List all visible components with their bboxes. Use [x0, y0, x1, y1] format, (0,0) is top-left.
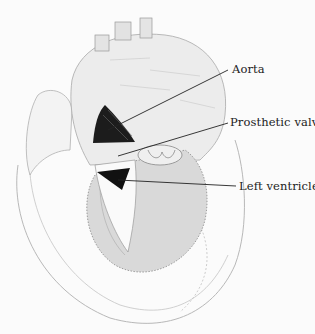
label-left-ventricle: Left ventricle	[239, 179, 315, 193]
heart-illustration: Aorta Prosthetic valve Left ventricle	[0, 0, 315, 334]
label-aorta: Aorta	[232, 62, 265, 76]
heart-drawing	[0, 0, 315, 334]
label-prosthetic-valve: Prosthetic valve	[230, 115, 315, 129]
